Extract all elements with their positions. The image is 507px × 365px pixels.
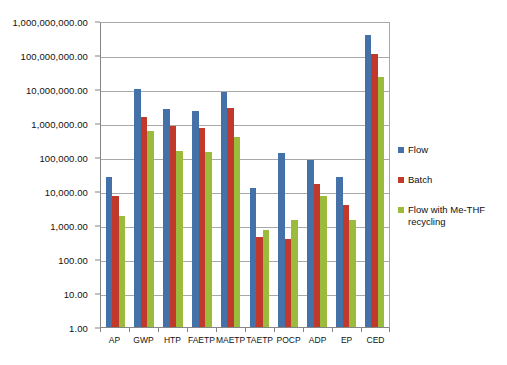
bar-group-taetp: [245, 23, 274, 327]
bar-group-ep: [331, 23, 360, 327]
x-tick-label-ap: AP: [100, 330, 129, 350]
y-tick-label: 1,000,000,000.00: [12, 17, 88, 28]
legend-entry-2[interactable]: Flow with Me-THF recycling: [398, 204, 504, 228]
bar-group-maetp: [216, 23, 245, 327]
legend-swatch-icon: [398, 207, 404, 213]
legend-swatch-icon: [398, 147, 404, 153]
y-tick-label: 100.00: [58, 255, 88, 266]
x-tick-label-gwp: GWP: [129, 330, 158, 350]
y-tick-label: 10.00: [64, 289, 88, 300]
bar-ap-series-2: [119, 216, 126, 327]
y-tick-label: 1,000,000.00: [31, 119, 88, 130]
bar-group-faetp: [187, 23, 216, 327]
bar-group-ced: [360, 23, 389, 327]
bar-pocp-series-2: [291, 220, 298, 327]
bar-adp-series-2: [320, 196, 327, 327]
bar-gwp-series-2: [147, 131, 154, 327]
x-tick-label-maetp: MAETP: [216, 330, 245, 350]
x-tick-label-ced: CED: [361, 330, 390, 350]
log-scale-bar-chart: 1,000,000,000.00100,000,000.0010,000,000…: [0, 0, 507, 365]
bar-group-ap: [101, 23, 130, 327]
bar-taetp-series-2: [263, 230, 270, 327]
legend-label: Flow: [408, 144, 428, 156]
y-tick-label: 100,000,000.00: [21, 51, 88, 62]
x-tick-label-adp: ADP: [303, 330, 332, 350]
bar-group-adp: [303, 23, 332, 327]
bar-faetp-series-2: [205, 152, 212, 327]
bar-htp-series-2: [176, 151, 183, 327]
legend-label: Flow with Me-THF recycling: [408, 204, 504, 228]
legend-entry-0[interactable]: Flow: [398, 144, 504, 156]
y-tick-label: 100,000.00: [39, 153, 88, 164]
x-tick-label-taetp: TAETP: [245, 330, 274, 350]
y-tick-label: 10,000.00: [45, 187, 88, 198]
bars-layer: [101, 23, 389, 327]
y-tick-label: 10,000,000.00: [26, 85, 88, 96]
plot-area: [100, 22, 390, 328]
chart-legend: FlowBatchFlow with Me-THF recycling: [398, 144, 504, 246]
bar-ced-series-2: [378, 77, 385, 327]
legend-label: Batch: [408, 174, 432, 186]
y-tick-label: 1,000.00: [50, 221, 88, 232]
bar-group-htp: [159, 23, 188, 327]
legend-swatch-icon: [398, 177, 404, 183]
x-axis: APGWPHTPFAETPMAETPTAETPPOCPADPEPCED: [100, 330, 390, 350]
x-tick-label-faetp: FAETP: [187, 330, 216, 350]
bar-group-gwp: [130, 23, 159, 327]
y-axis: 1,000,000,000.00100,000,000.0010,000,000…: [0, 0, 96, 365]
y-tick-label: 1.00: [69, 323, 88, 334]
bar-ep-series-2: [349, 220, 356, 327]
bar-maetp-series-2: [234, 137, 241, 327]
x-tick-label-ep: EP: [332, 330, 361, 350]
legend-entry-1[interactable]: Batch: [398, 174, 504, 186]
bar-group-pocp: [274, 23, 303, 327]
x-tick-label-pocp: POCP: [274, 330, 303, 350]
x-tick-label-htp: HTP: [158, 330, 187, 350]
